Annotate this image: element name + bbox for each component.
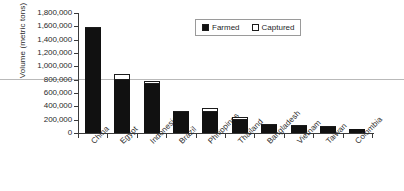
x-axis-tick xyxy=(166,134,167,138)
chart-legend: Farmed Captured xyxy=(195,19,301,36)
x-axis-tick xyxy=(313,134,314,138)
y-axis-tick-label: 1,200,000 xyxy=(37,49,72,57)
x-axis-tick xyxy=(254,134,255,138)
empty-square-icon xyxy=(252,24,259,31)
x-axis-tick xyxy=(284,134,285,138)
bar-segment-farmed xyxy=(114,80,130,133)
bar-china xyxy=(85,27,101,133)
legend-label-farmed: Farmed xyxy=(212,23,240,32)
bar-indonesia xyxy=(144,81,160,133)
filled-square-icon xyxy=(202,24,209,31)
legend-item-captured: Captured xyxy=(252,23,295,32)
bar-segment-farmed xyxy=(144,84,160,133)
x-axis-tick xyxy=(196,134,197,138)
x-axis-tick xyxy=(343,134,344,138)
y-axis-tick-label: 1,400,000 xyxy=(37,36,72,44)
x-axis-tick xyxy=(372,134,373,138)
y-axis-tick-label: 0 xyxy=(68,129,72,137)
y-axis-tick-label: 200,000 xyxy=(44,116,72,124)
legend-label-captured: Captured xyxy=(262,23,295,32)
y-axis-tick-label: 1,000,000 xyxy=(37,62,72,70)
x-axis-tick xyxy=(78,134,79,138)
y-axis-tick-label: 400,000 xyxy=(44,102,72,110)
bar-segment-farmed xyxy=(85,28,101,133)
y-axis-tick-label: 1,800,000 xyxy=(37,9,72,17)
bar-egypt xyxy=(114,74,130,133)
x-axis-tick xyxy=(137,134,138,138)
x-axis-tick xyxy=(225,134,226,138)
legend-item-farmed: Farmed xyxy=(202,23,240,32)
y-axis-tick-label: 600,000 xyxy=(44,89,72,97)
x-axis-tick xyxy=(107,134,108,138)
y-axis-title: Volume (metric tons) xyxy=(18,0,27,96)
y-axis-tick-label: 800,000 xyxy=(44,76,72,84)
tilapia-production-bar-chart: Volume (metric tons) 1,800,0001,600,0001… xyxy=(0,0,404,191)
y-axis-tick-label: 1,600,000 xyxy=(37,22,72,30)
